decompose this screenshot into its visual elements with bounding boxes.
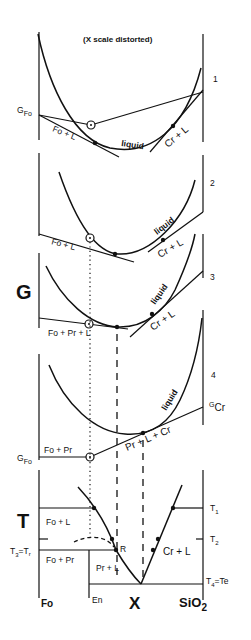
panel-3-tangent-point-pr (115, 325, 119, 329)
panel-1-gcr-line (91, 92, 203, 125)
panel-1-fo-l-label: Fo + L (51, 124, 78, 142)
x-axis-en-label: En (92, 595, 103, 605)
fo-l-field-label: Fo + L (46, 517, 71, 527)
t-axis-label: T (17, 510, 29, 532)
panel-2-cr-l-label: Cr + L (156, 236, 186, 260)
panel-3-cr-l-label: Cr + L (148, 308, 177, 333)
panel-2-tangent-point-fo (113, 252, 117, 256)
tx-phase-diagram: T T3=Tr T1 T2 T4=Te Fo + L Fo + Pr Pr + … (10, 470, 229, 613)
liquidus-right (141, 485, 182, 584)
phase-diagram-figure: (X scale distorted) 1 GFo Fo + L liquid … (0, 0, 251, 640)
t2-label: T2 (210, 534, 219, 546)
panel-2-number: 2 (210, 178, 215, 188)
panel-2: 2 Fo + L liquid Cr + L (39, 153, 215, 262)
panel-3-fo-pr-l-label: Fo + Pr + L (48, 328, 91, 338)
panel-1-gfo-line (39, 115, 91, 125)
t4-te-label: T4=Te (206, 576, 229, 588)
panel-1-gfo-label: GFo (17, 105, 32, 117)
g-axis-label: G (16, 281, 32, 303)
panel-1-tangent-point-cr (171, 124, 175, 128)
cr-l-field-label: Cr + L (163, 546, 191, 557)
panel-1-number: 1 (213, 74, 218, 84)
liquidus-point-t1-right (171, 506, 175, 510)
panel-4-gcr-label: GCr (209, 401, 226, 413)
panel-1-fo-l-tangent (39, 115, 119, 157)
r-point-label: R (120, 544, 126, 554)
panel-1-tangent-point-fo (93, 141, 97, 145)
panel-4-number: 4 (211, 370, 216, 380)
x-axis-label: X (129, 594, 141, 613)
panel-4-liquid-label: liquid (159, 388, 179, 413)
pr-l-field-label: Pr + L (96, 563, 119, 573)
liquidus-point-t2-right (156, 537, 160, 541)
panel-3-number: 3 (210, 272, 215, 282)
peritectic-point-r (114, 548, 118, 552)
panel-2-fo-l-label: Fo + L (50, 236, 76, 252)
panel-3-cr-l-tangent (130, 271, 203, 337)
t1-label: T1 (210, 503, 219, 515)
liquidus-point-t1-left (92, 506, 96, 510)
panel-4-gfo-label: GFo (17, 453, 32, 465)
t3-tr-label: T3=Tr (10, 546, 31, 558)
metastable-fo-liquidus (74, 537, 114, 547)
panel-4-fo-pr-label: Fo + Pr (44, 445, 72, 455)
panel-2-tangent-point-cr (161, 238, 165, 242)
panel-3-tangent-point-cr (150, 312, 154, 316)
panel-1: 1 GFo Fo + L liquid Cr + L (17, 32, 218, 157)
panel-1-cr-l-label: Cr + L (162, 123, 190, 149)
fo-pr-field-label: Fo + Pr (46, 555, 74, 565)
panel-4-pr-l-cr-label: Pr + L + Cr (123, 423, 173, 452)
x-axis-fo-label: Fo (41, 598, 53, 609)
liquidus-point-t3-right (151, 548, 155, 552)
scale-note: (X scale distorted) (83, 35, 153, 44)
liquidus-point-t2-left (110, 537, 114, 541)
